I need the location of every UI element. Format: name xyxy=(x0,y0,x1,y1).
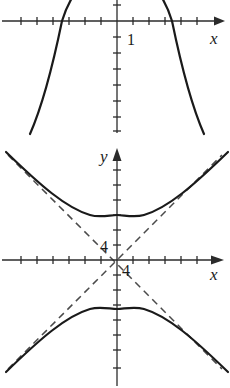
hyperbola-tick-label-x-four: 4 xyxy=(122,262,130,279)
parabola-plot: 1 x xyxy=(0,0,230,140)
parabola-figure: 1 x xyxy=(0,0,230,140)
hyperbola-x-axis-arrowhead xyxy=(211,256,224,265)
parabola-tick-label-one: 1 xyxy=(127,31,135,48)
hyperbola-figure: y x 4 4 xyxy=(0,140,230,388)
hyperbola-x-axis-label: x xyxy=(209,265,218,284)
hyperbola-plot: y x 4 4 xyxy=(0,140,230,388)
hyperbola-y-axis-arrowhead xyxy=(113,148,122,161)
hyperbola-y-axis-label: y xyxy=(98,147,108,166)
parabola-x-axis-arrowhead xyxy=(214,17,225,26)
hyperbola-tick-label-y-four: 4 xyxy=(100,238,108,255)
parabola-x-axis-label: x xyxy=(209,29,218,48)
